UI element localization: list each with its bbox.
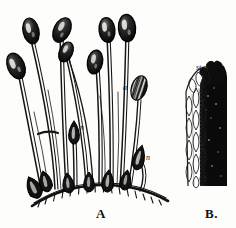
capsule (85, 49, 104, 75)
label-n2: n (146, 153, 150, 162)
capsule (49, 15, 75, 46)
figure-b-caption: B. (205, 206, 218, 222)
label-st: st. (196, 63, 203, 72)
capsule-ribbed (128, 74, 150, 102)
capsule (117, 14, 136, 42)
engraving-plate: a n n (0, 0, 236, 228)
capsule (98, 17, 117, 44)
label-n1: n (80, 123, 84, 132)
seta-group (18, 32, 146, 191)
bud-n1 (69, 121, 80, 144)
plate-drawing: a n n (0, 0, 236, 228)
capsule (56, 40, 77, 65)
figure-a: a n n (3, 14, 168, 207)
capsule (3, 50, 29, 81)
figure-a-caption: A (96, 206, 106, 222)
figure-b: st. (186, 61, 228, 188)
capsule (20, 17, 41, 46)
label-a: a (123, 83, 127, 92)
